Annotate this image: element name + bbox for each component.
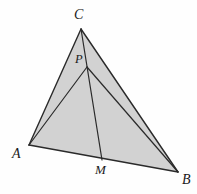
vertex-label-b: B	[182, 173, 191, 187]
vertex-label-a: A	[12, 147, 21, 161]
vertex-label-c: C	[74, 8, 83, 22]
vertex-label-m: M	[95, 163, 106, 176]
geometry-figure: C P A M B	[0, 0, 197, 194]
vertex-label-p: P	[75, 53, 83, 66]
